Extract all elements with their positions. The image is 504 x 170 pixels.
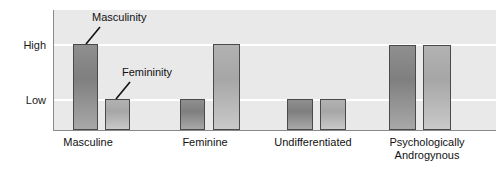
bar-chart-figure: High Low Masculinity Femininity Masculin… [0, 0, 504, 170]
x-axis-label-undifferentiated: Undifferentiated [258, 136, 368, 149]
x-axis-label-androgynous: Psychologically Androgynous [372, 136, 482, 161]
x-axis-label-masculine: Masculine [48, 136, 128, 149]
x-axis-label-feminine: Feminine [165, 136, 245, 149]
